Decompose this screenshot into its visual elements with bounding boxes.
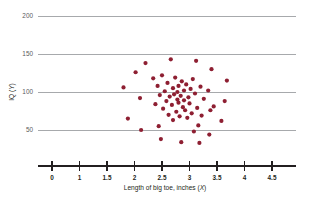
data-point [182, 88, 186, 92]
data-point [179, 94, 183, 98]
data-point [192, 129, 196, 133]
data-point [169, 57, 173, 61]
x-axis-title-prefix: Length of big toe, inches ( [124, 184, 201, 192]
data-point [219, 119, 223, 123]
data-point [175, 90, 179, 94]
y-axis-title-suffix: ) [8, 83, 16, 85]
data-point [202, 97, 206, 101]
ytick-labels-group: 20015010050 [22, 12, 33, 133]
data-point [179, 140, 183, 144]
x-tick-label-1: 1 [78, 174, 82, 181]
data-point [173, 75, 177, 79]
data-point [171, 86, 175, 90]
data-point [159, 137, 163, 141]
data-point [187, 101, 191, 105]
data-point [189, 87, 193, 91]
data-point [184, 82, 188, 86]
data-point [225, 79, 229, 83]
data-point [167, 113, 171, 117]
gridlines-group [38, 16, 296, 130]
data-point [165, 81, 169, 85]
data-point [139, 128, 143, 132]
x-tick-label-4: 4 [243, 174, 247, 181]
y-tick-label-200: 200 [22, 12, 33, 19]
data-point [209, 67, 213, 71]
x-tick-label-0: 0 [50, 174, 54, 181]
x-tick-label-2: 2 [133, 174, 137, 181]
data-point [134, 70, 138, 74]
x-axis-title-suffix: ) [204, 184, 206, 192]
data-point [197, 141, 201, 145]
data-point [161, 107, 165, 111]
data-point [191, 77, 195, 81]
data-point [196, 123, 200, 127]
x-tick-label-2.5: 2.5 [158, 174, 167, 181]
x-axis-group: 011.522.533.544.5 [38, 161, 296, 181]
data-point [126, 117, 130, 121]
data-point [200, 113, 204, 117]
data-point [163, 89, 167, 93]
data-point [121, 85, 125, 89]
data-point [198, 85, 202, 89]
data-point [180, 79, 184, 83]
data-point [223, 99, 227, 103]
y-tick-label-100: 100 [22, 88, 33, 95]
x-axis-ticks: 011.522.533.544.5 [50, 161, 277, 181]
data-point [164, 99, 168, 103]
data-point [157, 124, 161, 128]
y-tick-label-50: 50 [26, 126, 34, 133]
data-point [206, 88, 210, 92]
x-tick-label-3.5: 3.5 [213, 174, 222, 181]
data-point [186, 95, 190, 99]
data-point [185, 116, 189, 120]
chart-canvas: 20015010050 011.522.533.544.5 Length of … [0, 0, 312, 200]
x-tick-label-4.5: 4.5 [268, 174, 277, 181]
data-point [138, 96, 142, 100]
data-point [153, 102, 157, 106]
data-points-group [121, 57, 229, 145]
data-point [176, 101, 180, 105]
data-point [151, 76, 155, 80]
data-point [174, 110, 178, 114]
data-point [176, 84, 180, 88]
x-axis-title: Length of big toe, inches (X) [124, 184, 207, 192]
y-axis-title: IQ (Y) [8, 83, 16, 101]
data-point [193, 91, 197, 95]
data-point [207, 132, 211, 136]
data-point [208, 108, 212, 112]
data-point [190, 111, 194, 115]
scatter-plot-figure: 20015010050 011.522.533.544.5 Length of … [0, 0, 312, 200]
data-point [212, 104, 216, 108]
x-tick-label-3: 3 [188, 174, 192, 181]
data-point [158, 93, 162, 97]
data-point [156, 84, 160, 88]
data-point [171, 118, 175, 122]
x-tick-label-1.5: 1.5 [103, 174, 112, 181]
data-point [160, 73, 164, 77]
y-tick-label-150: 150 [22, 50, 33, 57]
data-point [178, 114, 182, 118]
data-point [183, 108, 187, 112]
data-point [194, 59, 198, 63]
data-point [195, 106, 199, 110]
data-point [182, 98, 186, 102]
data-point [168, 94, 172, 98]
data-point [170, 103, 174, 107]
data-point [143, 61, 147, 65]
